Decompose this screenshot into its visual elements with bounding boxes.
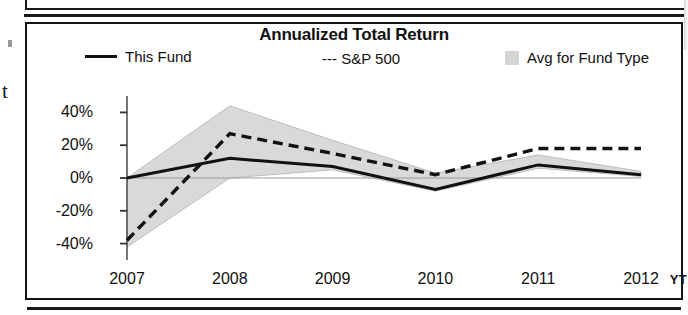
y-axis-tick-label: 40% <box>31 103 93 121</box>
y-axis-tick-label: -20% <box>31 202 93 220</box>
scan-artifact-left-glyph: t <box>2 78 18 104</box>
x-axis-tick-label: 2008 <box>212 270 248 288</box>
scan-artifact-bottom-rule <box>27 307 681 310</box>
gray-square-swatch-icon <box>505 51 519 65</box>
legend-label-this-fund: This Fund <box>125 48 192 65</box>
solid-line-swatch-icon <box>85 55 117 58</box>
x-axis-tick-label: 2009 <box>315 270 351 288</box>
y-axis-tick-label: -40% <box>31 235 93 253</box>
scan-artifact-top-rule <box>24 14 688 17</box>
x-axis-tick-label: 2011 <box>521 270 555 288</box>
y-axis-tick-labels: 40%20%0%-20%-40% <box>27 96 93 260</box>
x-axis-tick-labels: YT 200720082009201020112012 <box>27 270 681 296</box>
x-axis-tick-label: 2010 <box>418 270 454 288</box>
y-axis-tick-label: 20% <box>31 136 93 154</box>
y-axis-tick-label: 0% <box>31 169 93 187</box>
chart-title: Annualized Total Return <box>27 25 681 45</box>
x-axis-tick-label: 2007 <box>109 270 145 288</box>
scan-artifact-top-box <box>25 0 687 10</box>
legend-item-sp500: --- S&P 500 <box>322 50 400 67</box>
chart-svg <box>101 96 647 260</box>
legend-item-this-fund: This Fund <box>85 48 192 65</box>
legend-item-avg-for-fund-type: Avg for Fund Type <box>505 49 649 66</box>
x-axis-tick-label: 2012 <box>623 270 659 288</box>
scan-artifact-page-edge <box>684 0 688 50</box>
legend-label-avg-for-fund-type: Avg for Fund Type <box>527 49 649 66</box>
legend-label-sp500: --- S&P 500 <box>322 50 400 67</box>
avg-fund-type-band <box>127 106 641 247</box>
chart-legend: This Fund --- S&P 500 Avg for Fund Type <box>27 48 681 72</box>
x-axis-unit-label: YT <box>670 272 687 287</box>
annualized-total-return-chart-panel: Annualized Total Return This Fund --- S&… <box>25 22 683 300</box>
scan-artifact-speck <box>8 40 12 47</box>
plot-area <box>101 96 647 260</box>
